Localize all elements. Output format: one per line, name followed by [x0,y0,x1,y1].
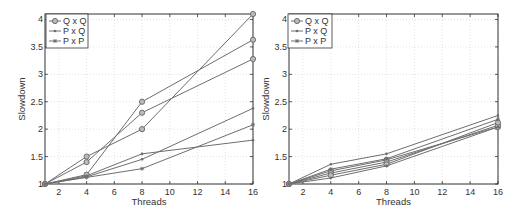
svg-text:3: 3 [38,69,43,79]
svg-text:14: 14 [220,187,230,197]
svg-text:2.5: 2.5 [274,97,287,107]
svg-text:3.5: 3.5 [274,42,287,52]
series-line [45,108,253,184]
svg-text:16: 16 [248,187,258,197]
svg-text:3.5: 3.5 [30,42,43,52]
legend-label: P x Q [305,26,327,36]
svg-text:3: 3 [282,69,287,79]
svg-text:4: 4 [84,187,89,197]
svg-text:12: 12 [193,187,203,197]
legend: Q x QP x QP x P [46,14,88,48]
series [286,114,500,186]
svg-text:2.5: 2.5 [30,97,43,107]
svg-text:2: 2 [300,187,305,197]
legend-label: P x Q [63,26,85,36]
legend-label: Q x Q [63,16,87,26]
svg-text:1.5: 1.5 [274,152,287,162]
svg-text:14: 14 [465,187,475,197]
legend-label: P x P [63,36,84,46]
svg-text:1.5: 1.5 [30,152,43,162]
svg-text:4: 4 [282,14,287,24]
chart-1: 24681012141611.522.533.54ThreadsSlowdown… [16,11,258,207]
svg-text:2: 2 [56,187,61,197]
series-line [45,125,253,184]
series-line [45,40,253,184]
svg-text:12: 12 [437,187,447,197]
series-line [289,123,498,184]
y-axis-label: Slowdown [16,77,27,120]
series-line [45,140,253,184]
x-axis-label: Threads [376,196,411,207]
legend-label: Q x Q [305,16,329,26]
legend: Q x QP x QP x P [288,14,332,48]
svg-text:6: 6 [112,187,117,197]
svg-text:16: 16 [493,187,503,197]
x-axis-label: Threads [132,196,167,207]
y-axis-label: Slowdown [260,77,271,120]
svg-text:4: 4 [38,14,43,24]
svg-text:6: 6 [356,187,361,197]
svg-text:2: 2 [282,124,287,134]
svg-text:2: 2 [38,124,43,134]
svg-text:4: 4 [328,187,333,197]
figure: 24681012141611.522.533.54ThreadsSlowdown… [0,0,521,213]
chart-2: 24681012141611.522.533.54ThreadsSlowdown… [260,14,503,207]
legend-label: P x P [305,36,326,46]
